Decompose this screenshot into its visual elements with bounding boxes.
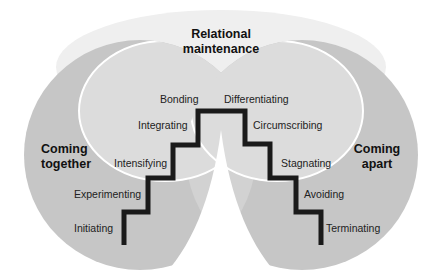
title-line-2: maintenance [183,42,259,56]
title-line-2: together [41,157,91,171]
stage-differentiating: Differentiating [224,93,289,105]
title-line-1: Coming [41,142,88,156]
stage-stagnating: Stagnating [281,157,331,169]
title-line-1: Coming [354,142,401,156]
stage-terminating: Terminating [326,222,380,234]
stage-integrating: Integrating [138,119,188,131]
relational-maintenance-title: Relational maintenance [170,27,272,57]
title-line-1: Relational [191,27,251,41]
title-line-2: apart [362,157,393,171]
stage-experimenting: Experimenting [74,188,141,200]
stage-initiating: Initiating [74,222,113,234]
stage-avoiding: Avoiding [304,188,344,200]
coming-apart-title: Coming apart [347,142,407,172]
stage-bonding: Bonding [160,93,199,105]
stage-circumscribing: Circumscribing [253,119,322,131]
stage-intensifying: Intensifying [114,157,167,169]
coming-together-title: Coming together [41,142,91,172]
